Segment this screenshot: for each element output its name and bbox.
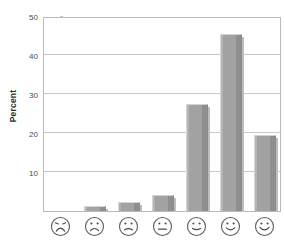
y-tick-label: 30 <box>29 91 38 100</box>
slightly-sad-face-icon <box>117 216 139 237</box>
y-tick-label: 10 <box>29 169 38 178</box>
bar[interactable] <box>220 34 242 211</box>
bar-slot <box>254 18 276 211</box>
y-axis-tick-labels: 1020304050 <box>20 12 38 212</box>
bar-slot <box>118 18 140 211</box>
neutral-face-icon <box>151 216 173 237</box>
very-happy-face-icon <box>253 216 275 237</box>
bar-slot <box>220 18 242 211</box>
y-tick-label: 50 <box>29 13 38 22</box>
bar[interactable] <box>118 202 140 211</box>
y-tick-label: 40 <box>29 52 38 61</box>
bar[interactable] <box>84 206 106 211</box>
plot-area <box>43 17 281 212</box>
bar-chart: Percent 1020304050 <box>0 0 284 248</box>
bar[interactable] <box>186 104 208 211</box>
bar-slot <box>186 18 208 211</box>
bar-slot <box>84 18 106 211</box>
bar-slot <box>152 18 174 211</box>
bar[interactable] <box>152 195 174 211</box>
bar-slot <box>50 18 72 211</box>
happy-face-icon <box>219 216 241 237</box>
x-axis-face-labels <box>43 214 281 246</box>
y-tick-label: 20 <box>29 130 38 139</box>
sad-face-icon <box>83 216 105 237</box>
bars-layer <box>44 18 280 211</box>
slightly-happy-face-icon <box>185 216 207 237</box>
bar[interactable] <box>254 135 276 211</box>
y-axis-title-text: Percent <box>8 90 18 123</box>
very-sad-face-icon <box>49 216 71 237</box>
